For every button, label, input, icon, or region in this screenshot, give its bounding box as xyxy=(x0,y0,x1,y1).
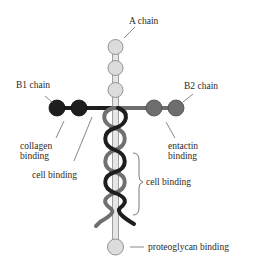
a-chain-globule-terminal xyxy=(108,239,124,255)
label-proteoglycan-binding: proteoglycan binding xyxy=(148,242,229,252)
b1-chain-globule-2 xyxy=(71,100,87,116)
b2-chain-globule-2 xyxy=(168,100,184,116)
leader-collagen-binding xyxy=(56,121,64,138)
a-chain-globule-3 xyxy=(108,83,123,98)
leader-cell-binding-left xyxy=(74,117,92,161)
laminin-diagram: A chain B1 chain B2 chain collagen bindi… xyxy=(0,0,257,267)
label-b1-chain: B1 chain xyxy=(16,80,50,90)
a-chain-globule-2 xyxy=(108,61,123,76)
leader-a-chain xyxy=(124,27,135,38)
label-a-chain: A chain xyxy=(129,16,159,26)
leader-b1-chain xyxy=(45,96,53,103)
leader-b2-chain xyxy=(183,94,193,102)
leader-entactin-binding xyxy=(166,122,175,138)
label-entactin-binding-line2: binding xyxy=(168,151,197,161)
b1-chain-globule-1 xyxy=(49,100,65,116)
a-chain-globule-1 xyxy=(108,40,123,55)
label-cell-binding-right: cell binding xyxy=(146,177,191,187)
label-cell-binding-left: cell binding xyxy=(32,170,77,180)
cell-binding-brace xyxy=(133,153,143,215)
label-collagen-binding-line1: collagen xyxy=(20,141,52,151)
label-collagen-binding-line2: binding xyxy=(20,151,49,161)
b2-chain-globule-1 xyxy=(146,100,162,116)
label-b2-chain: B2 chain xyxy=(184,81,218,91)
label-entactin-binding-line1: entactin xyxy=(168,141,198,151)
